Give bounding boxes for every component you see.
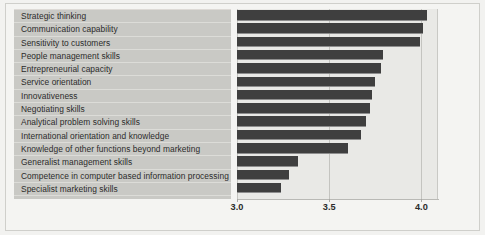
bar (237, 37, 420, 48)
gridline-4.0 (421, 9, 422, 199)
category-label: Negotiating skills (14, 105, 85, 113)
category-label-row: International orientation and knowledge (14, 130, 231, 143)
category-label-row: Competence in computer based information… (14, 170, 231, 183)
bar (237, 23, 423, 34)
category-label: Strategic thinking (14, 12, 86, 20)
bar (237, 116, 366, 127)
bar (237, 10, 427, 21)
category-label: Entrepreneurial capacity (14, 65, 113, 73)
category-label-row: Innovativeness (14, 90, 231, 103)
bar (237, 170, 289, 181)
category-label-row: Sensitivity to customers (14, 37, 231, 50)
bar (237, 90, 372, 101)
category-label: Innovativeness (14, 92, 78, 100)
category-label-row: Specialist marketing skills (14, 183, 231, 196)
bar (237, 156, 298, 167)
category-label-row: Knowledge of other functions beyond mark… (14, 143, 231, 156)
category-label-row: Analytical problem solving skills (14, 116, 231, 129)
category-label-row: Strategic thinking (14, 10, 231, 23)
category-label: Communication capability (14, 25, 118, 33)
category-label: International orientation and knowledge (14, 132, 169, 140)
category-label: Sensitivity to customers (14, 39, 110, 47)
bar (237, 77, 375, 88)
category-label: Generalist management skills (14, 158, 132, 166)
bar (237, 183, 281, 194)
category-label-row: Communication capability (14, 23, 231, 36)
category-label-row: People management skills (14, 50, 231, 63)
x-tick-label: 3.5 (323, 203, 336, 212)
category-label: Competence in computer based information… (14, 172, 229, 180)
plot-area (237, 9, 438, 199)
category-label: Knowledge of other functions beyond mark… (14, 145, 200, 153)
category-label-row: Negotiating skills (14, 103, 231, 116)
x-axis-line (237, 199, 439, 200)
x-tick-label: 4.0 (415, 203, 428, 212)
bar (237, 63, 381, 74)
category-label: Specialist marketing skills (14, 185, 118, 193)
bar (237, 50, 383, 61)
chart-figure: Strategic thinkingCommunication capabili… (0, 0, 485, 235)
category-label-row: Generalist management skills (14, 156, 231, 169)
x-tick-label: 3.0 (231, 203, 244, 212)
bar (237, 130, 361, 141)
bar (237, 143, 348, 154)
bar (237, 103, 370, 114)
category-label: People management skills (14, 52, 120, 60)
category-label-panel: Strategic thinkingCommunication capabili… (14, 9, 231, 199)
category-label-row: Service orientation (14, 77, 231, 90)
category-label: Analytical problem solving skills (14, 118, 140, 126)
category-label: Service orientation (14, 78, 91, 86)
category-label-row: Entrepreneurial capacity (14, 63, 231, 76)
